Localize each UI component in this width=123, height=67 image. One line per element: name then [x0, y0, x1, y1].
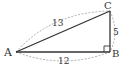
vertex-label-b: B — [112, 48, 119, 59]
side-label-ac: 13 — [52, 18, 64, 28]
vertex-label-a: A — [3, 46, 13, 59]
right-angle-marker — [104, 46, 110, 52]
side-label-ab: 12 — [58, 56, 69, 66]
side-label-bc: 5 — [113, 27, 119, 37]
triangle-diagram: A B C 13 5 12 — [0, 0, 123, 67]
vertex-label-c: C — [104, 0, 112, 11]
